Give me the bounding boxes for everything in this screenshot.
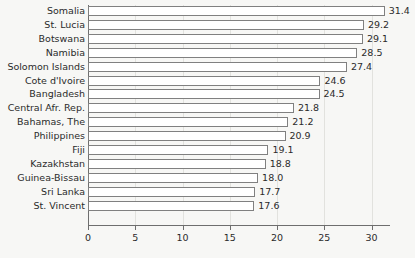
bar [88, 187, 255, 197]
bar [88, 62, 347, 72]
bar [88, 103, 294, 113]
bar [88, 173, 258, 183]
value-axis [88, 225, 390, 226]
bar-value-label: 24.5 [324, 89, 345, 99]
bar-row: Sri Lanka17.7 [0, 187, 415, 201]
bar [88, 48, 357, 58]
bar-row: Kazakhstan18.8 [0, 159, 415, 173]
bar-value-label: 29.2 [368, 20, 389, 30]
bar-value-label: 19.1 [272, 145, 293, 155]
axis-tick [324, 226, 325, 230]
category-label: Sri Lanka [0, 187, 85, 197]
axis-tick [372, 226, 373, 230]
bar-row: Cote d'Ivoire24.6 [0, 76, 415, 90]
bar-value-label: 28.5 [361, 48, 382, 58]
bar-row: St. Lucia29.2 [0, 20, 415, 34]
axis-tick-label: 15 [215, 232, 245, 243]
bar-row: Solomon Islands27.4 [0, 62, 415, 76]
bar-row: Central Afr. Rep.21.8 [0, 103, 415, 117]
bar-row: Namibia28.5 [0, 48, 415, 62]
bar-row: Bahamas, The21.2 [0, 117, 415, 131]
bar [88, 131, 286, 141]
bar-row: Bangladesh24.5 [0, 89, 415, 103]
category-label: Namibia [0, 48, 85, 58]
category-label: Cote d'Ivoire [0, 76, 85, 86]
bar-row: Botswana29.1 [0, 34, 415, 48]
bar-value-label: 21.8 [298, 103, 319, 113]
category-label: Central Afr. Rep. [0, 103, 85, 113]
bar-value-label: 17.7 [259, 187, 280, 197]
bar [88, 34, 363, 44]
axis-tick-label: 30 [357, 232, 387, 243]
axis-tick [230, 226, 231, 230]
bar-value-label: 18.0 [262, 173, 283, 183]
bar-row: Fiji19.1 [0, 145, 415, 159]
axis-tick [135, 226, 136, 230]
category-label: Fiji [0, 145, 85, 155]
category-label: St. Vincent [0, 201, 85, 211]
category-label: Solomon Islands [0, 62, 85, 72]
bar-row: Somalia31.4 [0, 6, 415, 20]
bar [88, 145, 268, 155]
axis-tick-label: 20 [262, 232, 292, 243]
axis-tick-label: 10 [168, 232, 198, 243]
bar-value-label: 24.6 [324, 76, 345, 86]
axis-tick-label: 0 [73, 232, 103, 243]
bar [88, 117, 288, 127]
category-label: Philippines [0, 131, 85, 141]
bar-chart: 051015202530Somalia31.4St. Lucia29.2Bots… [0, 0, 415, 258]
bar [88, 76, 320, 86]
category-label: Bangladesh [0, 89, 85, 99]
axis-tick [277, 226, 278, 230]
bar-row: Philippines20.9 [0, 131, 415, 145]
category-label: Guinea-Bissau [0, 173, 85, 183]
bar-value-label: 20.9 [290, 131, 311, 141]
bar-row: Guinea-Bissau18.0 [0, 173, 415, 187]
bar-value-label: 18.8 [270, 159, 291, 169]
category-label: Botswana [0, 34, 85, 44]
bar [88, 6, 385, 16]
axis-tick [88, 226, 89, 230]
bar-value-label: 31.4 [389, 6, 410, 16]
bar-value-label: 27.4 [351, 62, 372, 72]
category-label: Somalia [0, 6, 85, 16]
bar-row: St. Vincent17.6 [0, 201, 415, 215]
category-label: Kazakhstan [0, 159, 85, 169]
bar [88, 20, 364, 30]
bar [88, 201, 254, 211]
bar [88, 159, 266, 169]
bar-value-label: 29.1 [367, 34, 388, 44]
bar-value-label: 17.6 [258, 201, 279, 211]
bar [88, 89, 320, 99]
axis-tick [183, 226, 184, 230]
bar-value-label: 21.2 [292, 117, 313, 127]
axis-tick-label: 5 [120, 232, 150, 243]
category-label: Bahamas, The [0, 117, 85, 127]
category-label: St. Lucia [0, 20, 85, 30]
plot-area: 051015202530Somalia31.4St. Lucia29.2Bots… [0, 0, 415, 258]
axis-tick-label: 25 [309, 232, 339, 243]
